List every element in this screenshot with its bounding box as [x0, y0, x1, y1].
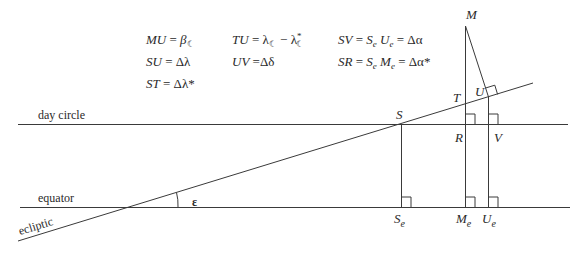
- equations: MU = β☾ SU = Δλ ST = Δλ* TU = λ☾ − λ*☾ U…: [145, 31, 430, 91]
- epsilon-arc: [177, 193, 179, 208]
- point-se-label: Se: [394, 211, 406, 229]
- point-m-label: M: [465, 7, 478, 22]
- right-angle-ue: [489, 197, 499, 207]
- epsilon-label: ε: [192, 195, 197, 209]
- point-v-label: V: [494, 130, 504, 145]
- point-ue-label: Ue: [482, 211, 496, 229]
- right-angle-se: [402, 197, 412, 207]
- point-s-label: S: [396, 107, 403, 122]
- ecliptic-label: ecliptic: [17, 214, 55, 238]
- right-angle-me: [466, 197, 476, 207]
- eq-su: SU = Δλ: [146, 54, 191, 69]
- eq-sv: SV = Se Ue = Δα: [338, 32, 423, 49]
- eq-tu: TU = λ☾ − λ*☾: [232, 31, 304, 49]
- ecliptic-equator-diagram: MU = β☾ SU = Δλ ST = Δλ* TU = λ☾ − λ*☾ U…: [0, 0, 586, 254]
- eq-st: ST = Δλ*: [146, 76, 195, 91]
- day-circle-label: day circle: [38, 108, 85, 122]
- point-t-label: T: [453, 90, 461, 105]
- point-u-label: U: [475, 84, 486, 99]
- right-angle-v: [489, 114, 499, 124]
- equator-label: equator: [38, 191, 74, 205]
- eq-mu: MU = β☾: [145, 32, 195, 49]
- point-r-label: R: [454, 130, 463, 145]
- point-me-label: Me: [455, 211, 472, 229]
- eq-uv: UV =Δδ: [232, 54, 274, 69]
- right-angle-r: [466, 114, 476, 124]
- eq-sr: SR = Se Me = Δα*: [338, 54, 430, 71]
